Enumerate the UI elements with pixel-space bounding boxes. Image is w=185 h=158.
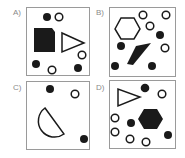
- panel-a[interactable]: [26, 7, 90, 76]
- filled-circle-icon: [141, 84, 150, 93]
- filled-circle-icon: [46, 85, 54, 93]
- panel-c[interactable]: [26, 81, 90, 150]
- panel-a-figure: [27, 8, 91, 77]
- hollow-circle-icon: [142, 138, 150, 146]
- panel-b[interactable]: [109, 7, 176, 77]
- hollow-triangle-icon: [62, 33, 84, 52]
- hollow-circle-icon: [158, 90, 166, 98]
- hollow-circle-icon: [111, 114, 119, 122]
- panel-b-figure: [110, 8, 177, 78]
- filled-circle-icon: [156, 31, 164, 39]
- filled-circle-icon: [111, 62, 119, 70]
- filled-circle-icon: [117, 42, 125, 50]
- hollow-circle-icon: [78, 51, 86, 59]
- hollow-circle-icon: [161, 44, 169, 52]
- panel-d-label: D): [96, 84, 104, 92]
- filled-circle-icon: [127, 119, 135, 127]
- panel-a-label: A): [13, 9, 21, 17]
- filled-circle-icon: [164, 131, 172, 139]
- hollow-circle-icon: [48, 66, 56, 74]
- panel-d-figure: [110, 81, 177, 150]
- hollow-hexagon-icon: [115, 18, 140, 39]
- filled-circle-icon: [32, 60, 40, 68]
- hollow-circle-icon: [146, 22, 154, 30]
- filled-square-icon: [34, 28, 55, 52]
- hollow-circle-icon: [126, 135, 134, 143]
- panel-d[interactable]: [109, 80, 176, 149]
- filled-circle-icon: [74, 64, 82, 72]
- panel-c-figure: [27, 82, 91, 151]
- hollow-circle-icon: [111, 128, 119, 136]
- filled-circle-icon: [80, 135, 88, 143]
- filled-circle-icon: [43, 13, 51, 21]
- filled-circle-icon: [148, 62, 156, 70]
- panel-c-label: C): [13, 84, 21, 92]
- filled-hexagon-icon: [138, 109, 163, 129]
- hollow-circle-icon: [55, 13, 63, 21]
- hollow-semicircle-icon: [38, 108, 64, 137]
- filled-parallelogram-icon: [127, 43, 151, 65]
- hollow-circle-icon: [71, 90, 79, 98]
- panel-b-label: B): [96, 9, 104, 17]
- hollow-circle-icon: [139, 11, 147, 19]
- hollow-circle-icon: [162, 11, 170, 19]
- hollow-triangle-icon: [118, 89, 140, 106]
